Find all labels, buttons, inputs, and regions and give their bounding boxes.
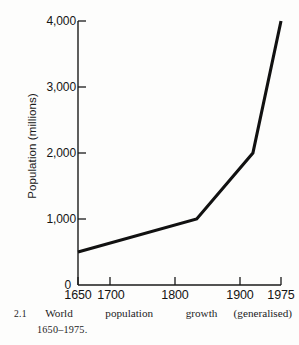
figure-caption-line-1: 2.1 World population growth (generalised… <box>14 306 292 321</box>
x-axis-ticks <box>78 277 281 285</box>
chart-plot-area: Population (millions) 4,000 3,000 2,000 … <box>0 0 299 300</box>
y-tick-label-4000: 4,000 <box>26 14 76 28</box>
figure-number: 2.1 <box>14 306 29 321</box>
figure-caption-line-2: 1650–1975. <box>14 322 292 337</box>
x-tick-label-1800: 1800 <box>145 288 205 302</box>
x-tick-label-1975: 1975 <box>251 288 299 302</box>
y-tick-label-3000: 3,000 <box>26 80 76 94</box>
population-line-series <box>78 21 281 252</box>
figure-caption: 2.1 World population growth (generalised… <box>14 306 292 337</box>
caption-word-2: population <box>89 306 169 321</box>
y-tick-label-2000: 2,000 <box>26 146 76 160</box>
y-tick-label-1000: 1,000 <box>26 212 76 226</box>
caption-word-3: growth <box>169 306 233 321</box>
y-axis-ticks <box>78 21 86 219</box>
caption-word-1: World <box>29 306 89 321</box>
caption-word-4: (generalised) <box>234 306 292 321</box>
chart-axes <box>78 21 281 285</box>
figure-container: Population (millions) 4,000 3,000 2,000 … <box>0 0 299 345</box>
x-tick-label-1700: 1700 <box>81 288 141 302</box>
